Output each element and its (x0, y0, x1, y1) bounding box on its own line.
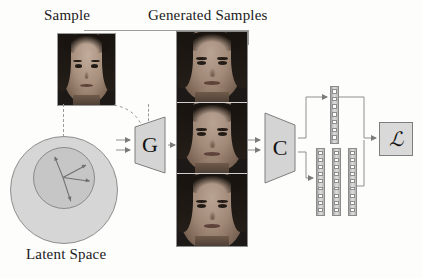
architecture-diagram: Sample Generated Samples Latent Space G (0, 0, 422, 278)
feature-cell (334, 151, 339, 155)
sample-label: Sample (44, 7, 90, 24)
feature-cell (318, 187, 323, 191)
classifier-block[interactable]: C (262, 112, 298, 184)
latent-space-label: Latent Space (26, 246, 106, 263)
feature-cell (318, 208, 323, 212)
generator-block[interactable]: G (132, 116, 168, 174)
feature-cell (334, 172, 339, 176)
feature-cell (334, 158, 339, 162)
generated-samples-label: Generated Samples (148, 7, 268, 24)
feature-vector-bottom-1 (316, 148, 325, 216)
feature-cell (350, 194, 355, 198)
feature-cell (350, 179, 355, 183)
feature-cell (334, 208, 339, 212)
generated-sample-2 (177, 103, 247, 174)
feature-cell (350, 187, 355, 191)
feature-vector-top (330, 86, 339, 144)
feature-cell (318, 179, 323, 183)
generated-sample-1 (177, 32, 247, 103)
loss-box[interactable]: ℒ (379, 122, 413, 156)
feature-cell (334, 201, 339, 205)
feature-cell (318, 158, 323, 162)
feature-cell (350, 151, 355, 155)
feature-cell (350, 165, 355, 169)
feature-cell (332, 120, 337, 125)
feature-cell (334, 179, 339, 183)
feature-cell (332, 89, 337, 94)
sample-face-image (57, 33, 116, 106)
feature-cell (350, 158, 355, 162)
feature-cell (332, 104, 337, 109)
feature-cell (332, 112, 337, 117)
feature-cell (318, 194, 323, 198)
feature-cell (318, 201, 323, 205)
generated-samples-panel (176, 31, 248, 247)
feature-cell (350, 208, 355, 212)
latent-ray-arrow-icon (85, 178, 90, 183)
feature-cell (318, 151, 323, 155)
feature-cell (318, 165, 323, 169)
feature-cell (318, 172, 323, 176)
generator-glyph: G (132, 132, 168, 158)
feature-vector-bottom-2 (332, 148, 341, 216)
feature-cell (350, 172, 355, 176)
loss-glyph: ℒ (389, 127, 403, 151)
classifier-glyph: C (262, 135, 298, 161)
feature-cell (332, 135, 337, 140)
feature-vector-bottom-3 (348, 148, 357, 216)
face-portrait (58, 34, 115, 105)
generated-sample-3 (177, 174, 247, 246)
feature-cell (332, 128, 337, 133)
feature-cell (334, 194, 339, 198)
feature-cell (350, 201, 355, 205)
feature-cell (334, 187, 339, 191)
feature-cell (334, 165, 339, 169)
feature-cell (332, 97, 337, 102)
